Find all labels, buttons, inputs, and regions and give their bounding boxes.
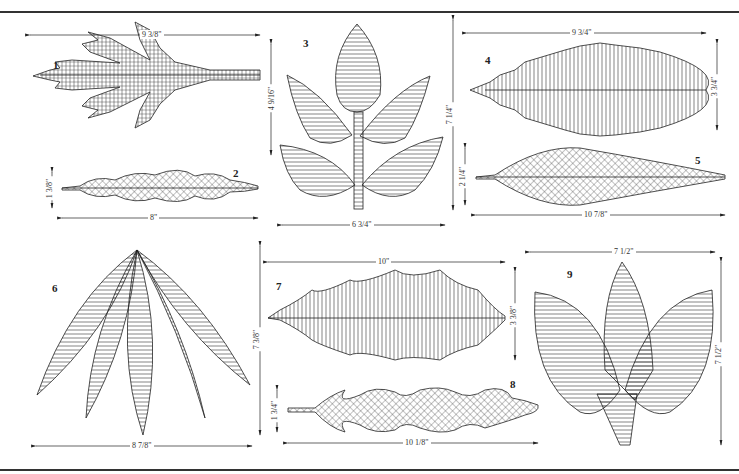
figure-9-height-dimension: 7 1/2" bbox=[714, 343, 723, 367]
figure-8-label: 8 bbox=[510, 378, 516, 390]
figure-4-width-dimension: 9 3/4" bbox=[570, 28, 594, 37]
figure-6-height-dimension: 7 3/8" bbox=[252, 328, 261, 352]
figure-3-label: 3 bbox=[303, 37, 309, 49]
figure-1-width-dimension: 9 3/8" bbox=[140, 30, 164, 39]
figure-7-label: 7 bbox=[276, 280, 282, 292]
figure-5-height-dimension: 2 1/4" bbox=[458, 165, 467, 189]
figure-4-leaf bbox=[470, 43, 709, 136]
pattern-sheet: 1 2 3 4 5 6 7 8 9 9 3/8" 4 9/16" 8" 1 3/… bbox=[0, 0, 739, 474]
figure-9-leaf bbox=[535, 262, 714, 445]
figure-2-leaf bbox=[62, 170, 258, 201]
figure-7-width-dimension: 10" bbox=[376, 257, 391, 266]
figure-4-label: 4 bbox=[485, 54, 491, 66]
figure-9-width-dimension: 7 1/2" bbox=[612, 247, 636, 256]
figure-3-height-dimension: 7 1/4" bbox=[445, 103, 454, 127]
figure-1-height-dimension: 4 9/16" bbox=[267, 85, 276, 113]
figure-6-width-dimension: 8 7/8" bbox=[130, 441, 154, 450]
figure-5-label: 5 bbox=[695, 154, 701, 166]
figure-2-label: 2 bbox=[233, 167, 239, 179]
figure-7-leaf bbox=[268, 270, 505, 360]
leaf-drawings bbox=[0, 0, 739, 474]
figure-2-width-dimension: 8" bbox=[148, 213, 159, 222]
figure-3-width-dimension: 6 3/4" bbox=[350, 220, 374, 229]
figure-7-height-dimension: 3 3/8" bbox=[509, 304, 518, 328]
figure-8-width-dimension: 10 1/8" bbox=[403, 438, 431, 447]
figure-9-label: 9 bbox=[567, 268, 573, 280]
figure-2-height-dimension: 1 3/8" bbox=[45, 177, 54, 201]
figure-5-leaf bbox=[476, 148, 725, 206]
figure-6-label: 6 bbox=[52, 282, 58, 294]
figure-1-label: 1 bbox=[53, 59, 59, 71]
figure-5-width-dimension: 10 7/8" bbox=[582, 210, 610, 219]
figure-4-height-dimension: 3 3/4" bbox=[710, 75, 719, 99]
figure-8-height-dimension: 1 3/4" bbox=[270, 399, 279, 423]
figure-6-leaf bbox=[37, 250, 250, 435]
figure-3-leaf bbox=[280, 24, 443, 209]
figure-8-leaf bbox=[288, 388, 538, 432]
